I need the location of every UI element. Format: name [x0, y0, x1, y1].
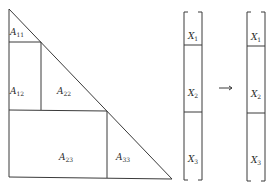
label-left-x1: X1	[188, 32, 198, 42]
label-a23: A23	[59, 153, 73, 163]
diagram-canvas	[0, 0, 273, 190]
triangle-outline	[9, 9, 172, 179]
label-subscript: 3	[194, 158, 198, 165]
lower-triangular-matrix	[9, 9, 172, 179]
label-a11: A11	[10, 28, 24, 38]
label-right-x2: X2	[251, 90, 261, 100]
label-subscript: 12	[16, 90, 24, 97]
label-subscript: 2	[257, 93, 261, 100]
label-subscript: 3	[257, 159, 261, 166]
block-divider-row2	[9, 110, 107, 111]
label-subscript: 11	[16, 31, 24, 38]
label-left-x2: X2	[188, 89, 198, 99]
label-right-x3: X3	[251, 156, 261, 166]
label-subscript: 2	[194, 92, 198, 99]
label-a33: A33	[116, 153, 130, 163]
label-right-x1: X1	[251, 33, 261, 43]
label-subscript: 1	[194, 35, 198, 42]
label-a12: A12	[10, 87, 24, 97]
label-subscript: 23	[65, 156, 73, 163]
label-subscript: 33	[122, 156, 130, 163]
label-left-x3: X3	[188, 155, 198, 165]
label-subscript: 22	[63, 90, 71, 97]
right-bracket	[198, 12, 202, 180]
label-subscript: 1	[257, 36, 261, 43]
right-bracket	[261, 12, 265, 181]
label-a22: A22	[57, 87, 71, 97]
arrow	[219, 86, 232, 90]
